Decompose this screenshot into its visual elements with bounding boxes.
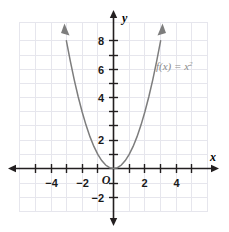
y-tick-label-8: 8 [98,35,104,47]
curve-arrow-left [61,24,70,36]
function-label: f(x) = x2 [156,60,193,73]
x-tick-label-neg2: −2 [76,177,89,189]
coordinate-graph-figure: −4 −2 2 4 8 6 4 2 −2 O y x f(x) = x2 [0,0,229,232]
y-axis-arrow-down [110,218,117,226]
graph-canvas: −4 −2 2 4 8 6 4 2 −2 O y x f(x) = x2 [0,0,229,232]
x-tick-label-neg4: −4 [45,177,58,189]
curve-arrow-right [158,24,167,36]
function-label-text: f(x) = x [156,60,189,73]
y-axis-name-label: y [120,11,128,25]
x-tick-label-2: 2 [141,177,147,189]
y-tick-label-neg2: −2 [91,192,104,204]
y-tick-label-4: 4 [98,92,105,104]
y-axis-arrow-up [110,10,117,18]
svg-text:f(x) = x2: f(x) = x2 [156,60,193,73]
y-axis [109,10,118,226]
function-label-exponent: 2 [189,60,193,68]
x-tick-label-4: 4 [173,177,180,189]
y-tick-label-2: 2 [98,134,104,146]
y-tick-label-6: 6 [98,64,104,76]
x-axis-arrow-left [8,165,16,172]
x-axis-name-label: x [209,150,216,164]
origin-label: O [102,173,111,187]
x-axis-arrow-right [211,165,219,172]
